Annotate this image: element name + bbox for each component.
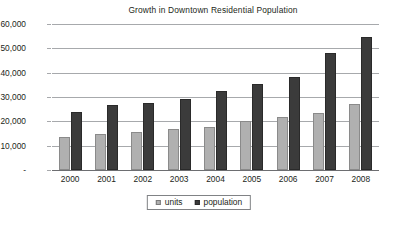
y-axis-tick-mark [47,97,51,98]
bar-group [204,24,227,170]
axis-baseline [52,170,379,171]
bar-units-2000[interactable] [59,137,70,170]
chart-legend: units population [147,195,251,210]
y-axis-label: 60,000 [0,19,26,29]
x-axis-label-2008: 2008 [352,174,371,184]
bar-group [277,24,300,170]
bar-population-2005[interactable] [252,84,263,170]
bar-population-2002[interactable] [143,103,154,170]
bar-population-2008[interactable] [361,37,372,170]
bar-units-2007[interactable] [313,113,324,170]
bar-group [240,24,263,170]
y-axis-tick-mark [47,146,51,147]
bar-group [349,24,372,170]
chart-container: Growth in Downtown Residential Populatio… [0,0,398,226]
chart-title: Growth in Downtown Residential Populatio… [0,5,398,15]
legend-swatch-units-icon [156,200,161,205]
bar-population-2007[interactable] [325,53,336,170]
y-axis-label: 10,000 [0,141,26,151]
y-axis-tick-mark [47,24,51,25]
x-axis-label-2007: 2007 [315,174,334,184]
bar-units-2006[interactable] [277,117,288,170]
bar-units-2002[interactable] [131,132,142,170]
y-axis-tick-mark [47,48,51,49]
x-axis-label-2003: 2003 [170,174,189,184]
bar-population-2003[interactable] [180,99,191,170]
x-axis-label-2004: 2004 [206,174,225,184]
y-axis-label: - [0,165,26,175]
bar-units-2001[interactable] [95,134,106,170]
legend-label-units: units [165,198,183,206]
y-axis-label: 40,000 [0,68,26,78]
bar-group [59,24,82,170]
bar-units-2003[interactable] [168,129,179,170]
plot-area: -10,00020,00030,00040,00050,00060,000 [52,24,379,170]
bar-population-2001[interactable] [107,105,118,170]
legend-item-units[interactable]: units [156,198,183,206]
y-axis-label: 50,000 [0,43,26,53]
bar-units-2005[interactable] [240,121,251,170]
legend-label-population: population [204,198,243,206]
bar-population-2006[interactable] [289,77,300,170]
x-axis-labels: 200020012002200320042005200620072008 [52,174,379,188]
bar-units-2004[interactable] [204,127,215,170]
bar-units-2008[interactable] [349,104,360,170]
bar-group [313,24,336,170]
y-axis-label: 30,000 [0,92,26,102]
x-axis-label-2006: 2006 [279,174,298,184]
x-axis-label-2005: 2005 [243,174,262,184]
x-axis-label-2000: 2000 [61,174,80,184]
legend-item-population[interactable]: population [195,198,243,206]
legend-swatch-population-icon [195,200,200,205]
x-axis-label-2002: 2002 [134,174,153,184]
y-axis-tick-mark [47,73,51,74]
y-axis-tick-mark [47,121,51,122]
bar-group [131,24,154,170]
bar-group [95,24,118,170]
y-axis-label: 20,000 [0,116,26,126]
y-axis-tick-mark [47,170,51,171]
x-axis-label-2001: 2001 [97,174,116,184]
bar-group [168,24,191,170]
bar-population-2000[interactable] [71,112,82,170]
bar-population-2004[interactable] [216,91,227,170]
